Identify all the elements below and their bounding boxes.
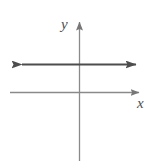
graph-canvas xyxy=(0,0,157,161)
coordinate-plane-figure: y x xyxy=(0,0,157,161)
y-axis-label: y xyxy=(61,17,68,32)
x-axis-label: x xyxy=(137,96,144,111)
